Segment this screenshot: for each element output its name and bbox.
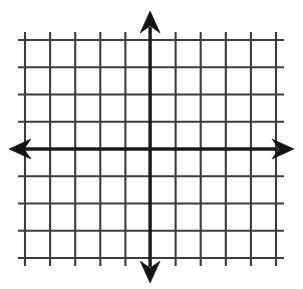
- coordinate-grid-figure: [0, 0, 303, 289]
- grid-canvas: [0, 0, 303, 289]
